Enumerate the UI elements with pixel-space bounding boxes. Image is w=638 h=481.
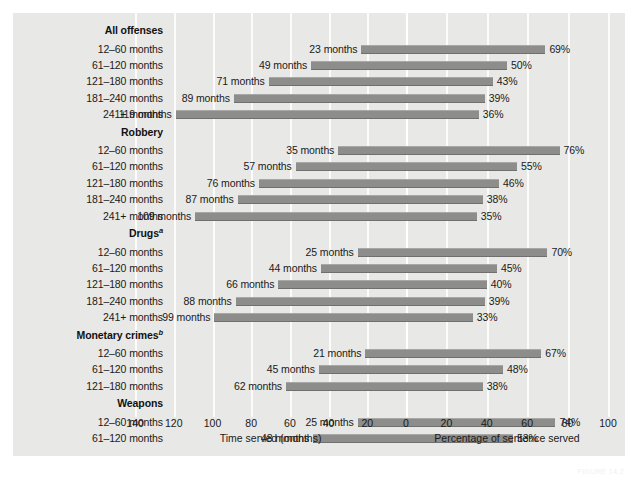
figure-credit: FIGURE 14.2 (578, 468, 624, 475)
bar-months (176, 110, 406, 119)
bar-percent-value: 39% (489, 295, 510, 307)
bar-percent-value: 35% (481, 210, 502, 222)
tick-label-months-20: 20 (361, 417, 373, 429)
chart-row: 121–180 months66 months40% (13, 277, 625, 293)
bar-percent-value: 40% (491, 278, 512, 290)
figure-chart: All offenses12–60 months23 months69%61–1… (0, 0, 638, 481)
right-axis-title: Percentage of sentence served (434, 432, 579, 444)
bar-months (236, 297, 406, 306)
bar-months (278, 280, 406, 289)
bar-months (361, 45, 406, 54)
chart-row: 241+ months119 months36% (13, 107, 625, 123)
group-header-drugs: Drugsa (13, 227, 163, 239)
chart-row: 181–240 months87 months38% (13, 192, 625, 208)
tick-label-months-140: 140 (126, 417, 144, 429)
bar-percent (406, 264, 497, 273)
chart-row: 12–60 months25 months70% (13, 245, 625, 261)
bar-percent-value: 46% (503, 177, 524, 189)
chart-row: 12–60 months35 months76% (13, 143, 625, 159)
row-category-label: 12–60 months (13, 43, 163, 55)
bar-months-value: 62 months (234, 380, 282, 392)
group-header-label: Robbery (121, 126, 163, 138)
bar-percent-value: 45% (501, 262, 522, 274)
bar-months-value: 119 months (119, 108, 172, 120)
group-header-label: Drugs (129, 227, 159, 239)
tick-label-percent-100: 100 (599, 417, 617, 429)
bar-percent (406, 349, 541, 358)
plot-area: All offenses12–60 months23 months69%61–1… (13, 13, 625, 417)
bar-percent-value: 38% (487, 380, 508, 392)
bar-months-value: 76 months (207, 177, 255, 189)
row-category-label: 12–60 months (13, 144, 163, 156)
tick-label-months-40: 40 (323, 417, 335, 429)
chart-row: 61–120 months57 months55% (13, 159, 625, 175)
bar-months-value: 71 months (216, 75, 264, 87)
bar-percent-value: 36% (483, 108, 504, 120)
tick-label-months-60: 60 (284, 417, 296, 429)
group-header-label: Weapons (117, 397, 163, 409)
chart-row: 241+ months109 months35% (13, 209, 625, 225)
chart-row: 61–120 months45 months48% (13, 362, 625, 378)
bar-percent-value: 38% (487, 193, 508, 205)
bar-percent-value: 43% (497, 75, 518, 87)
group-header-robbery: Robbery (13, 126, 163, 138)
bar-percent-value: 70% (551, 246, 572, 258)
bar-months (238, 195, 406, 204)
bar-months-value: 87 months (186, 193, 234, 205)
bar-months-value: 21 months (313, 347, 361, 359)
tick-label-percent-20: 20 (441, 417, 453, 429)
bar-months (234, 94, 406, 103)
bar-percent-value: 67% (545, 347, 566, 359)
bar-percent (406, 248, 547, 257)
bar-percent-value: 50% (511, 59, 532, 71)
bar-percent (406, 280, 487, 289)
group-header-weapons: Weapons (13, 397, 163, 409)
tick-label-zero: 0 (403, 417, 409, 429)
left-axis-title: Time served (months) (220, 432, 322, 444)
bar-months-value: 88 months (184, 295, 232, 307)
chart-row: 12–60 months21 months67% (13, 346, 625, 362)
bar-percent (406, 179, 499, 188)
row-category-label: 61–120 months (13, 262, 163, 274)
bar-percent-value: 76% (564, 144, 585, 156)
group-header-all-offenses: All offenses (13, 24, 163, 36)
bar-percent (406, 162, 517, 171)
bar-months (319, 365, 406, 374)
bar-percent-value: 33% (477, 311, 498, 323)
row-category-label: 241+ months (13, 311, 163, 323)
bar-months-value: 89 months (182, 92, 230, 104)
bar-months (321, 264, 406, 273)
tick-label-months-80: 80 (245, 417, 257, 429)
bar-percent (406, 212, 477, 221)
bar-months (286, 382, 406, 391)
bar-months (365, 349, 406, 358)
chart-panel: All offenses12–60 months23 months69%61–1… (13, 13, 625, 456)
bar-percent-value: 48% (507, 363, 528, 375)
bar-months-value: 109 months (137, 210, 191, 222)
chart-row: 241+ months99 months33% (13, 310, 625, 326)
bar-percent-value: 55% (521, 160, 542, 172)
bar-percent (406, 365, 503, 374)
row-category-label: 181–240 months (13, 295, 163, 307)
row-category-label: 121–180 months (13, 278, 163, 290)
bar-months-value: 25 months (305, 246, 353, 258)
bar-percent (406, 45, 545, 54)
bar-percent (406, 110, 479, 119)
bar-months-value: 49 months (259, 59, 307, 71)
bar-percent (406, 61, 507, 70)
bar-percent (406, 382, 483, 391)
tick-label-percent-40: 40 (481, 417, 493, 429)
bar-percent-value: 69% (549, 43, 570, 55)
group-header-label: Monetary crimes (77, 329, 159, 341)
row-category-label: 121–180 months (13, 177, 163, 189)
chart-row: 61–120 months44 months45% (13, 261, 625, 277)
bar-percent (406, 77, 493, 86)
bar-months-value: 66 months (226, 278, 274, 290)
group-header-label: All offenses (105, 24, 163, 36)
bar-months (311, 61, 406, 70)
bar-percent (406, 297, 485, 306)
axis-area: 14012010080604020020406080100Time served… (13, 417, 625, 457)
bar-months (259, 179, 406, 188)
row-category-label: 61–120 months (13, 160, 163, 172)
bar-months (296, 162, 406, 171)
